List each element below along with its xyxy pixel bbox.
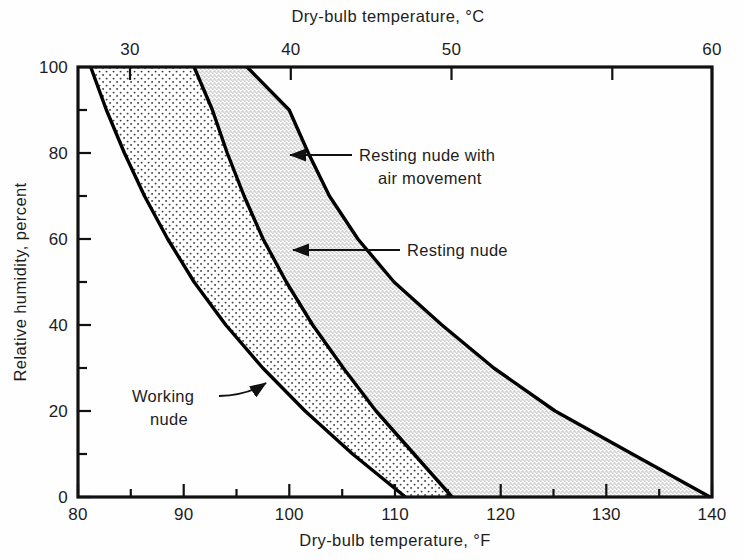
annotation-label-resting-air-line2: air movement xyxy=(378,169,482,187)
top-tick-label-60: 60 xyxy=(702,40,721,59)
annotation-label-resting-nude: Resting nude xyxy=(407,241,508,259)
top-tick-label-30: 30 xyxy=(120,40,139,59)
y-tick-label-0: 0 xyxy=(58,488,68,507)
top-tick-label-40: 40 xyxy=(281,40,300,59)
y-tick-label-60: 60 xyxy=(49,230,68,249)
axis-title-bottom: Dry-bulb temperature, °F xyxy=(299,531,490,549)
x-tick-label-110: 110 xyxy=(381,505,409,524)
x-tick-label-140: 140 xyxy=(698,505,727,524)
axis-title-left: Relative humidity, percent xyxy=(11,182,29,381)
y-tick-label-40: 40 xyxy=(49,316,68,335)
top-tick-label-50: 50 xyxy=(442,40,461,59)
x-tick-label-100: 100 xyxy=(275,505,304,524)
annotation-working-nude: Working nude xyxy=(132,383,266,428)
y-tick-label-80: 80 xyxy=(49,144,68,163)
x-tick-label-90: 90 xyxy=(174,505,193,524)
x-tick-label-130: 130 xyxy=(592,505,621,524)
annotation-arrow-working-nude xyxy=(219,383,266,396)
psychrometric-comfort-chart: 80 90 100 110 120 130 140 30 40 50 60 0 … xyxy=(0,0,743,560)
y-tick-label-20: 20 xyxy=(49,402,68,421)
annotation-label-resting-air-line1: Resting nude with xyxy=(359,146,495,164)
axis-title-top: Dry-bulb temperature, °C xyxy=(291,7,484,25)
x-tick-label-80: 80 xyxy=(68,505,87,524)
annotation-label-working-line2: nude xyxy=(150,410,188,428)
chart-canvas: 80 90 100 110 120 130 140 30 40 50 60 0 … xyxy=(0,0,743,560)
x-tick-label-120: 120 xyxy=(486,505,515,524)
y-axis-ticks xyxy=(78,67,91,497)
y-tick-label-100: 100 xyxy=(39,58,68,77)
annotation-label-working-line1: Working xyxy=(132,387,194,405)
